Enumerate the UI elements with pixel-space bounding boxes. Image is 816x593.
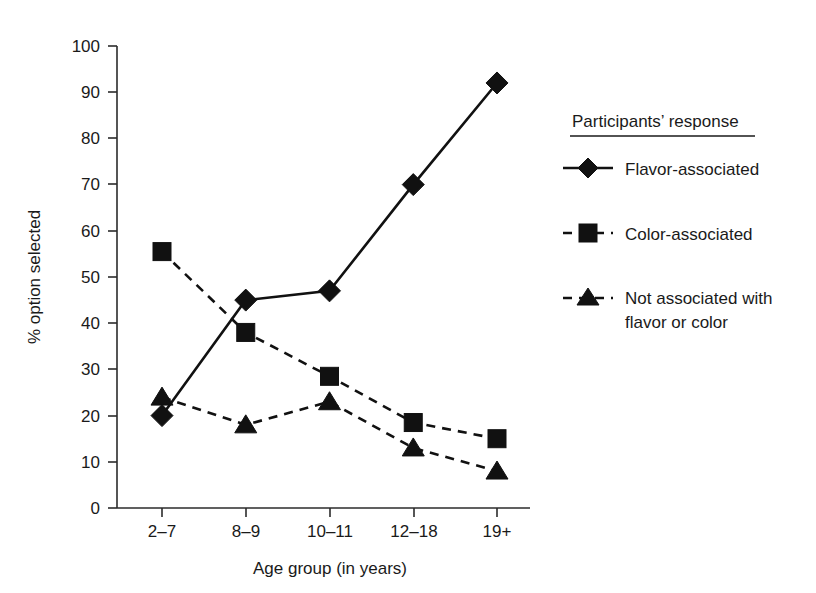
data-point-1-0 [153,243,171,261]
y-tick-label-90: 90 [81,83,100,102]
x-tick-label-1: 8–9 [232,522,260,541]
legend-title: Participants’ response [572,112,739,131]
data-point-1-3 [404,414,422,432]
legend-label-not-associated-line2: flavor or color [625,313,728,332]
data-point-1-1 [237,323,255,341]
legend-label-color-associated: Color-associated [625,225,753,244]
y-tick-label-60: 60 [81,222,100,241]
square-icon [579,224,597,242]
y-axis-title: % option selected [25,210,44,344]
line-chart-figure: 100 90 80 70 60 50 40 30 20 10 0 % optio… [0,0,816,593]
legend-item-color-associated[interactable]: Color-associated [563,224,753,244]
y-tick-label-80: 80 [81,129,100,148]
y-tick-label-20: 20 [81,407,100,426]
y-tick-label-0: 0 [91,499,100,518]
y-tick-label-70: 70 [81,175,100,194]
x-tick-label-3: 12–18 [390,522,437,541]
legend-label-not-associated-line1: Not associated with [625,289,772,308]
y-tick-label-10: 10 [81,453,100,472]
y-tick-label-30: 30 [81,360,100,379]
data-point-1-4 [488,430,506,448]
x-tick-label-2: 10–11 [307,522,353,541]
x-tick-label-0: 2–7 [148,522,176,541]
y-tick-label-100: 100 [72,37,100,56]
y-tick-label-50: 50 [81,268,100,287]
x-axis-title: Age group (in years) [253,559,407,578]
data-point-1-2 [321,367,339,385]
legend-label-flavor-associated: Flavor-associated [625,160,759,179]
x-tick-label-4: 19+ [483,522,512,541]
y-tick-label-40: 40 [81,314,100,333]
